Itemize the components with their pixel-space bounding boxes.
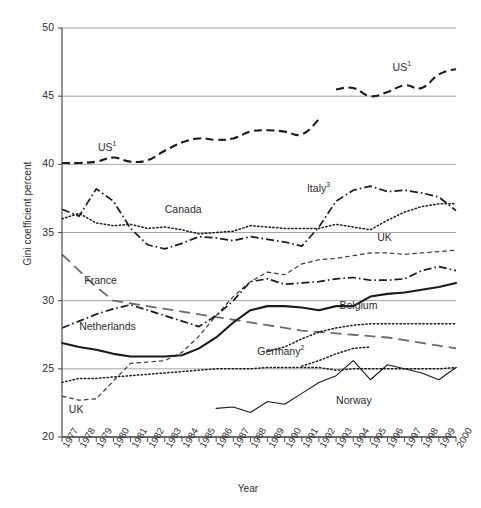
series-label-canada: Canada [165, 203, 202, 215]
x-axis-title: Year [218, 483, 278, 494]
y-tick-label: 25 [28, 362, 54, 374]
series-label-uk: UK [69, 403, 84, 415]
chart-figure: 50454035302520 1977197819791980198119821… [0, 0, 481, 508]
series-label-belgium: Belgium [340, 299, 378, 311]
series-label-norway: Norway [336, 394, 372, 406]
y-tick-label: 20 [28, 430, 54, 442]
series-label-footnote-marker: 3 [326, 181, 330, 188]
series-label-footnote-marker: 1 [407, 60, 411, 67]
series-label-text: Belgium [340, 299, 378, 311]
series-line-germany [62, 367, 456, 382]
series-label-us: US1 [98, 140, 117, 153]
series-line-france [62, 254, 456, 348]
series-label-text: Italy [307, 181, 326, 193]
series-line-us [336, 69, 456, 96]
series-label-netherlands: Netherlands [79, 320, 136, 332]
series-label-text: Canada [165, 203, 202, 215]
y-tick-label: 50 [28, 21, 54, 33]
series-label-text: Netherlands [79, 320, 136, 332]
series-label-italy: Italy3 [307, 181, 330, 194]
y-axis-title: Gini coefficient percent [22, 139, 33, 289]
series-label-france: France [84, 274, 117, 286]
series-label-text: UK [69, 403, 84, 415]
gridlines-group [62, 28, 456, 437]
series-label-text: Norway [336, 394, 372, 406]
y-tick-label: 45 [28, 89, 54, 101]
series-label-footnote-marker: 2 [300, 344, 304, 351]
series-label-text: Germany [257, 345, 300, 357]
series-lines-group [62, 69, 456, 413]
series-label-uk: UK [377, 231, 392, 243]
series-label-text: US [98, 140, 113, 152]
series-line-canada [62, 204, 456, 234]
series-label-text: France [84, 274, 117, 286]
series-line-netherlands [62, 267, 456, 328]
series-label-footnote-marker: 1 [113, 140, 117, 147]
y-tick-label: 30 [28, 294, 54, 306]
series-label-us: US1 [393, 60, 412, 73]
series-label-text: UK [377, 231, 392, 243]
series-line-italy [62, 186, 456, 249]
series-label-text: US [393, 60, 408, 72]
series-label-germany: Germany2 [257, 344, 304, 357]
series-line-germany-lower [302, 347, 371, 366]
